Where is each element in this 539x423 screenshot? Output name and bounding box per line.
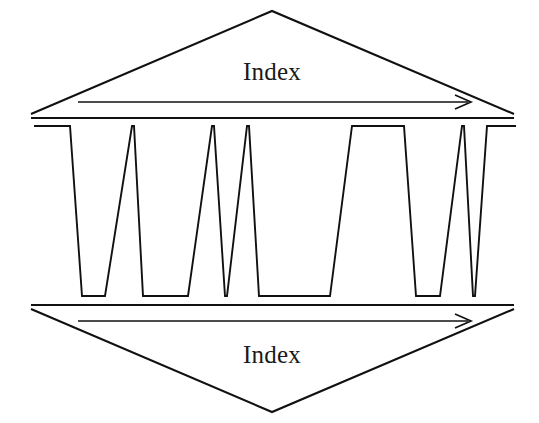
top-index-label: Index bbox=[243, 58, 301, 85]
bottom-index-label: Index bbox=[243, 341, 301, 368]
top-index-group: Index bbox=[31, 11, 514, 118]
bottom-index-group: Index bbox=[31, 305, 514, 412]
square-wave-signal bbox=[34, 126, 516, 296]
figure-root: Index Index bbox=[0, 0, 539, 423]
index-diagram: Index Index bbox=[0, 0, 539, 423]
waveform-group bbox=[34, 126, 516, 296]
